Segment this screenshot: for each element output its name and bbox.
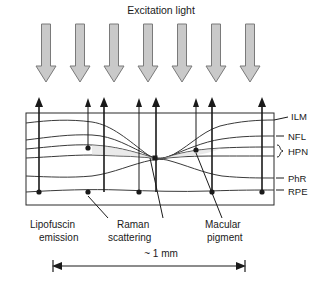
figure-canvas: Excitation light <box>0 0 322 282</box>
emission-arrow <box>152 97 160 192</box>
annotation-macular-line2: pigment <box>207 232 243 243</box>
annotation-group: Lipofuscin emission Raman scattering Mac… <box>30 219 243 243</box>
rpe-source-dot <box>85 189 90 194</box>
excitation-arrow <box>70 24 90 82</box>
source-dot-group <box>36 145 264 194</box>
emission-arrow <box>35 97 43 192</box>
rpe-source-dot <box>136 189 141 194</box>
curve-ilm <box>26 120 274 159</box>
figure-title: Excitation light <box>127 4 195 16</box>
excitation-arrow-group <box>36 24 260 82</box>
retinal-layer-curves <box>26 120 274 192</box>
layer-label-group: ILM NFL HPN PhR RPE <box>288 111 308 197</box>
annotation-raman-line2: scattering <box>108 232 151 243</box>
macular-pigment-dot <box>85 145 90 150</box>
excitation-arrow <box>206 24 226 82</box>
excitation-arrow <box>36 24 56 82</box>
layer-label-ilm: ILM <box>291 111 307 122</box>
curve-phr <box>26 159 274 178</box>
emission-arrow <box>208 97 216 192</box>
rpe-source-dot <box>36 189 41 194</box>
annotation-leaders <box>88 153 222 218</box>
macular-pigment-dot <box>193 147 198 152</box>
curve-rpe <box>26 190 274 192</box>
retina-excitation-emission-figure: Excitation light <box>0 0 322 282</box>
excitation-arrow <box>172 24 192 82</box>
emission-arrow <box>193 98 199 150</box>
excitation-arrow <box>138 24 158 82</box>
layer-label-leaders <box>274 117 288 190</box>
annotation-macular-line1: Macular <box>205 219 241 230</box>
annotation-raman-line1: Raman <box>117 219 149 230</box>
emission-arrow-group <box>35 97 266 192</box>
layer-label-phr: PhR <box>288 173 307 184</box>
layer-label-rpe: RPE <box>288 186 308 197</box>
emission-arrow <box>136 98 142 192</box>
scale-bar-label: ~ 1 mm <box>144 248 178 259</box>
annotation-lipofuscin-line2: emission <box>39 232 78 243</box>
rpe-source-dot <box>259 189 264 194</box>
curve-nfl <box>26 135 274 158</box>
scale-bar: ~ 1 mm <box>52 248 246 272</box>
annotation-lipofuscin-line1: Lipofuscin <box>30 219 75 230</box>
excitation-arrow <box>240 24 260 82</box>
emission-arrow <box>100 97 108 192</box>
leader-lipofuscin <box>88 196 108 218</box>
layer-label-nfl: NFL <box>288 131 306 142</box>
foveal-center-dot <box>153 156 158 161</box>
emission-arrow <box>85 98 91 148</box>
layer-label-hpn: HPN <box>288 146 308 157</box>
leader-macular <box>196 153 222 218</box>
excitation-arrow <box>104 24 124 82</box>
